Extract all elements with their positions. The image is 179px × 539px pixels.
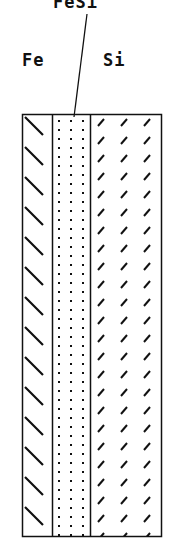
layer-fesi (52, 114, 90, 537)
layer-fe (22, 114, 52, 537)
leader-line (74, 14, 87, 117)
layer-diagram (0, 0, 179, 539)
layer-si (90, 114, 161, 537)
